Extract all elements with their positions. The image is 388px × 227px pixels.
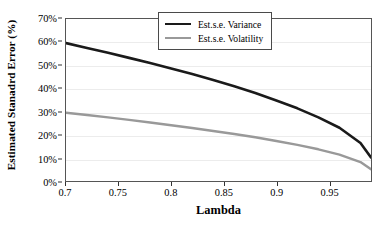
y-tick-label: 60% bbox=[38, 36, 57, 47]
x-tick-mark bbox=[118, 182, 119, 186]
y-tick-mark bbox=[58, 64, 62, 65]
x-tick-mark bbox=[171, 182, 172, 186]
x-tick-mark bbox=[277, 182, 278, 186]
legend-swatch-volatility bbox=[165, 37, 191, 39]
x-axis-title: Lambda bbox=[65, 203, 372, 218]
y-tick-mark bbox=[58, 135, 62, 136]
legend: Est.s.e. Variance Est.s.e. Volatility bbox=[158, 12, 272, 50]
y-tick-label: 50% bbox=[38, 59, 57, 70]
x-tick-label: 0.95 bbox=[321, 187, 339, 198]
y-tick-label: 30% bbox=[38, 106, 57, 117]
y-tick-label: 40% bbox=[38, 83, 57, 94]
chart-figure: Estimated Stanadrd Error (%) 0%10%20%30%… bbox=[0, 0, 388, 227]
legend-item-volatility: Est.s.e. Volatility bbox=[165, 31, 263, 45]
y-tick-mark bbox=[58, 41, 62, 42]
y-axis-title-container: Estimated Stanadrd Error (%) bbox=[0, 0, 22, 190]
x-tick-mark bbox=[330, 182, 331, 186]
legend-swatch-variance bbox=[165, 23, 191, 25]
y-axis-title: Estimated Stanadrd Error (%) bbox=[5, 20, 17, 171]
x-tick-label: 0.9 bbox=[270, 187, 283, 198]
x-tick-label: 0.85 bbox=[215, 187, 233, 198]
x-tick-label: 0.8 bbox=[164, 187, 177, 198]
y-tick-label: 70% bbox=[38, 13, 57, 24]
y-tick-mark bbox=[58, 88, 62, 89]
legend-label-variance: Est.s.e. Variance bbox=[198, 19, 261, 30]
y-tick-label: 10% bbox=[38, 153, 57, 164]
x-tick-mark bbox=[65, 182, 66, 186]
y-tick-mark bbox=[58, 111, 62, 112]
x-axis-ticks: 0.70.750.80.850.90.95 bbox=[65, 182, 372, 204]
x-tick-label: 0.75 bbox=[109, 187, 127, 198]
y-tick-mark bbox=[58, 18, 62, 19]
legend-label-volatility: Est.s.e. Volatility bbox=[198, 33, 263, 44]
y-tick-mark bbox=[58, 158, 62, 159]
x-tick-label: 0.7 bbox=[59, 187, 72, 198]
y-axis-ticks: 0%10%20%30%40%50%60%70% bbox=[22, 18, 62, 182]
y-tick-label: 0% bbox=[43, 177, 57, 188]
x-tick-mark bbox=[224, 182, 225, 186]
y-tick-mark bbox=[58, 182, 62, 183]
legend-item-variance: Est.s.e. Variance bbox=[165, 17, 263, 31]
y-tick-label: 20% bbox=[38, 130, 57, 141]
series-line-variance bbox=[66, 43, 371, 157]
